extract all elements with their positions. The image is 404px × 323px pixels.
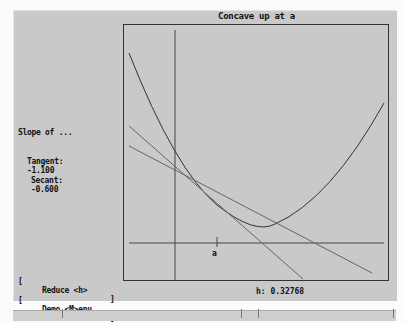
h-status: h: 0.32768 (256, 287, 304, 296)
bracket-open: [ (18, 296, 23, 305)
lower-panel-divider (393, 309, 394, 318)
h-value: 0.32768 (270, 287, 304, 296)
tangent-label: Tangent: (27, 157, 63, 166)
point-a-label: a (212, 249, 217, 258)
bracket-open: [ (18, 277, 23, 286)
lower-panel-divider (258, 309, 259, 318)
function-curve (129, 53, 384, 227)
lower-panel (13, 310, 396, 321)
slope-heading: Slope of ... (18, 128, 72, 137)
secant-readout: Secant: -0.600 (22, 167, 63, 194)
secant-value: -0.600 (31, 185, 58, 194)
secant-line (129, 146, 372, 273)
lower-panel-divider (62, 309, 63, 318)
lower-panel-divider (241, 309, 242, 318)
h-label: h: (256, 287, 266, 296)
secant-label: Secant: (31, 176, 63, 185)
